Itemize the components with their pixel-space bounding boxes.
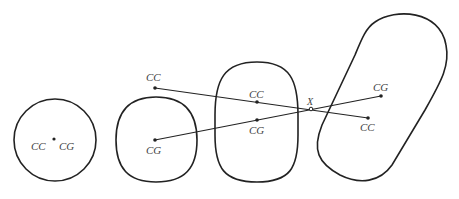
cc-point-start <box>153 86 157 90</box>
label-intersection-x: X <box>307 97 313 107</box>
cg-line <box>155 96 381 140</box>
label-s4-cg: CG <box>373 82 388 93</box>
label-s1-cg: CG <box>59 141 74 152</box>
diagram-canvas: CC CG CC CG CC CG X CG CC <box>0 0 459 199</box>
label-s1-cc: CC <box>31 141 46 152</box>
diagram-svg <box>0 0 459 199</box>
cc-point-shape4 <box>366 116 370 120</box>
shape-rounded-oval <box>215 62 298 182</box>
cg-point-shape4 <box>379 94 383 98</box>
cg-point-shape2 <box>153 138 157 142</box>
label-s3-cc: CC <box>249 89 264 100</box>
label-s2-cg: CG <box>146 145 161 156</box>
cc-point-shape3 <box>255 100 259 104</box>
label-line-cc-start: CC <box>146 72 161 83</box>
label-s4-cc: CC <box>360 122 375 133</box>
label-s3-cg: CG <box>249 125 264 136</box>
shape1-center-point <box>52 137 55 140</box>
intersection-point <box>309 107 313 111</box>
cg-point-shape3 <box>255 118 259 122</box>
